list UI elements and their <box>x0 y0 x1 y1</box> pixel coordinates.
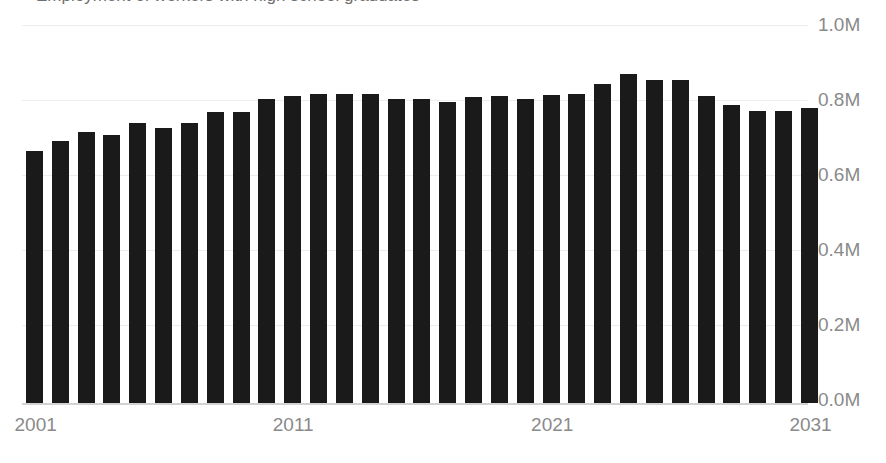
bar <box>491 96 508 403</box>
bar <box>52 141 69 404</box>
bar <box>698 96 715 403</box>
bar <box>129 123 146 404</box>
x-axis-tick-label: 2011 <box>273 412 314 438</box>
y-axis-tick-label: 1.0M <box>818 15 882 35</box>
x-axis-tick-label: 2031 <box>789 412 831 438</box>
plot-area <box>0 0 808 404</box>
bar-series <box>0 0 808 404</box>
bar <box>620 74 637 403</box>
bar <box>336 94 353 403</box>
y-axis-tick-label: 0.8M <box>818 90 882 110</box>
bar <box>594 84 611 403</box>
bar <box>775 111 792 404</box>
bar <box>388 99 405 404</box>
bar <box>155 128 172 403</box>
bar <box>723 105 740 403</box>
bar <box>568 94 585 403</box>
bar <box>465 97 482 403</box>
bar <box>439 102 456 403</box>
bar <box>413 99 430 403</box>
bar <box>284 96 301 403</box>
chart-page: Employment of workers with high school g… <box>0 0 886 463</box>
bar <box>646 80 663 403</box>
y-axis-labels: 1.0M0.8M0.6M0.4M0.2M0.0M <box>818 0 886 410</box>
bar <box>749 111 766 404</box>
bar <box>362 94 379 403</box>
bar <box>672 80 689 403</box>
x-axis-tick-label: 2001 <box>15 412 57 438</box>
bar <box>78 132 95 403</box>
bar <box>233 112 250 403</box>
bar <box>258 99 275 404</box>
bar <box>181 123 198 404</box>
y-axis-tick-label: 0.0M <box>818 390 882 410</box>
y-axis-tick-label: 0.2M <box>818 315 882 335</box>
y-axis-tick-label: 0.4M <box>818 240 882 260</box>
bar <box>103 135 120 403</box>
bar <box>517 99 534 403</box>
bar <box>26 151 43 403</box>
bar <box>801 108 818 403</box>
y-axis-tick-label: 0.6M <box>818 165 882 185</box>
x-axis-line <box>22 403 808 405</box>
x-axis-tick-label: 2021 <box>531 412 573 438</box>
x-axis-labels: 2001201120212031 <box>0 412 808 452</box>
bar <box>543 95 560 403</box>
bar <box>207 112 224 403</box>
bar <box>310 94 327 403</box>
